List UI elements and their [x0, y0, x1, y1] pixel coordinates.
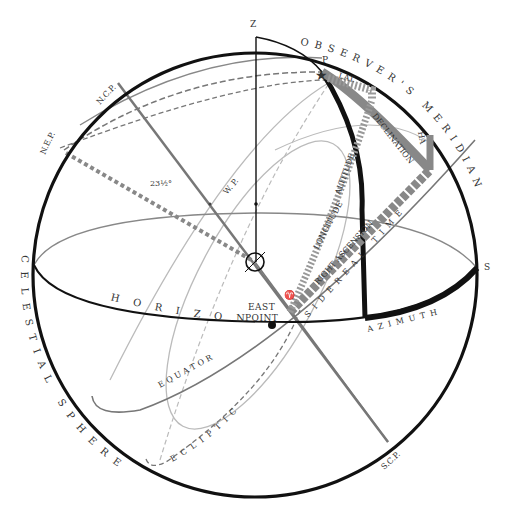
obliquity-label: 23½° [150, 179, 172, 188]
sidereal-time-label: SIDEREAL TIME [303, 204, 408, 319]
ecliptic-label: ECLIPTIC [169, 402, 243, 463]
pole-star-label: P [322, 55, 329, 65]
east-point-label-1: EAST [248, 302, 275, 312]
azimuth-arc [365, 268, 477, 318]
celestial-sphere-label: CELESTIAL SPHERE [19, 255, 131, 474]
wp-marker [254, 202, 258, 206]
diagram-canvas: ★ Z P LAT. DECLINATION HA LONGITUDE ALTI… [0, 0, 507, 526]
horizon-label: HORIZON [110, 291, 259, 324]
celestial-sphere-diagram: ★ Z P LAT. DECLINATION HA LONGITUDE ALTI… [0, 0, 507, 526]
sphere-outline [33, 53, 477, 497]
zenith-label: Z [250, 19, 257, 29]
ecliptic-line [146, 310, 300, 465]
axis-lower [255, 262, 388, 442]
equator-marker [209, 203, 212, 206]
star-icon: ★ [315, 67, 328, 83]
declination-label: DECLINATION [370, 112, 415, 166]
nep-label: N.E.P. [39, 130, 57, 156]
equator-label: EQUATOR [157, 352, 217, 390]
wp-label: W. P. [222, 177, 241, 197]
ecliptic-axis [66, 153, 255, 262]
vernal-equinox-label: ♈ [284, 289, 296, 300]
south-label: S [484, 262, 491, 272]
hour-angle-label: HA [416, 131, 427, 145]
altitude-label: ALTITUDE [333, 152, 357, 197]
scp-label: S.C.P. [379, 450, 401, 472]
